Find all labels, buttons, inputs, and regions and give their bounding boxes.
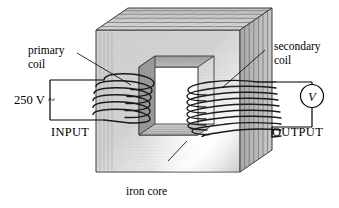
transformer-diagram-svg: V primary coil secondary coil 250 V ~ IN… [0, 0, 339, 208]
supply-voltage-label: 250 V [14, 93, 45, 107]
primary-coil-label-line2: coil [28, 58, 45, 70]
secondary-coil-label-line1: secondary [274, 40, 321, 53]
secondary-coil-label-line2: coil [274, 54, 291, 66]
iron-core-label: iron core [126, 185, 167, 197]
iron-core [96, 8, 272, 172]
input-label: INPUT [51, 125, 89, 139]
output-label: OUTPUT [272, 125, 323, 139]
transformer-diagram-figure: V primary coil secondary coil 250 V ~ IN… [0, 0, 339, 208]
primary-coil-label-line1: primary [28, 44, 65, 57]
supply-ac-symbol: ~ [48, 93, 55, 107]
